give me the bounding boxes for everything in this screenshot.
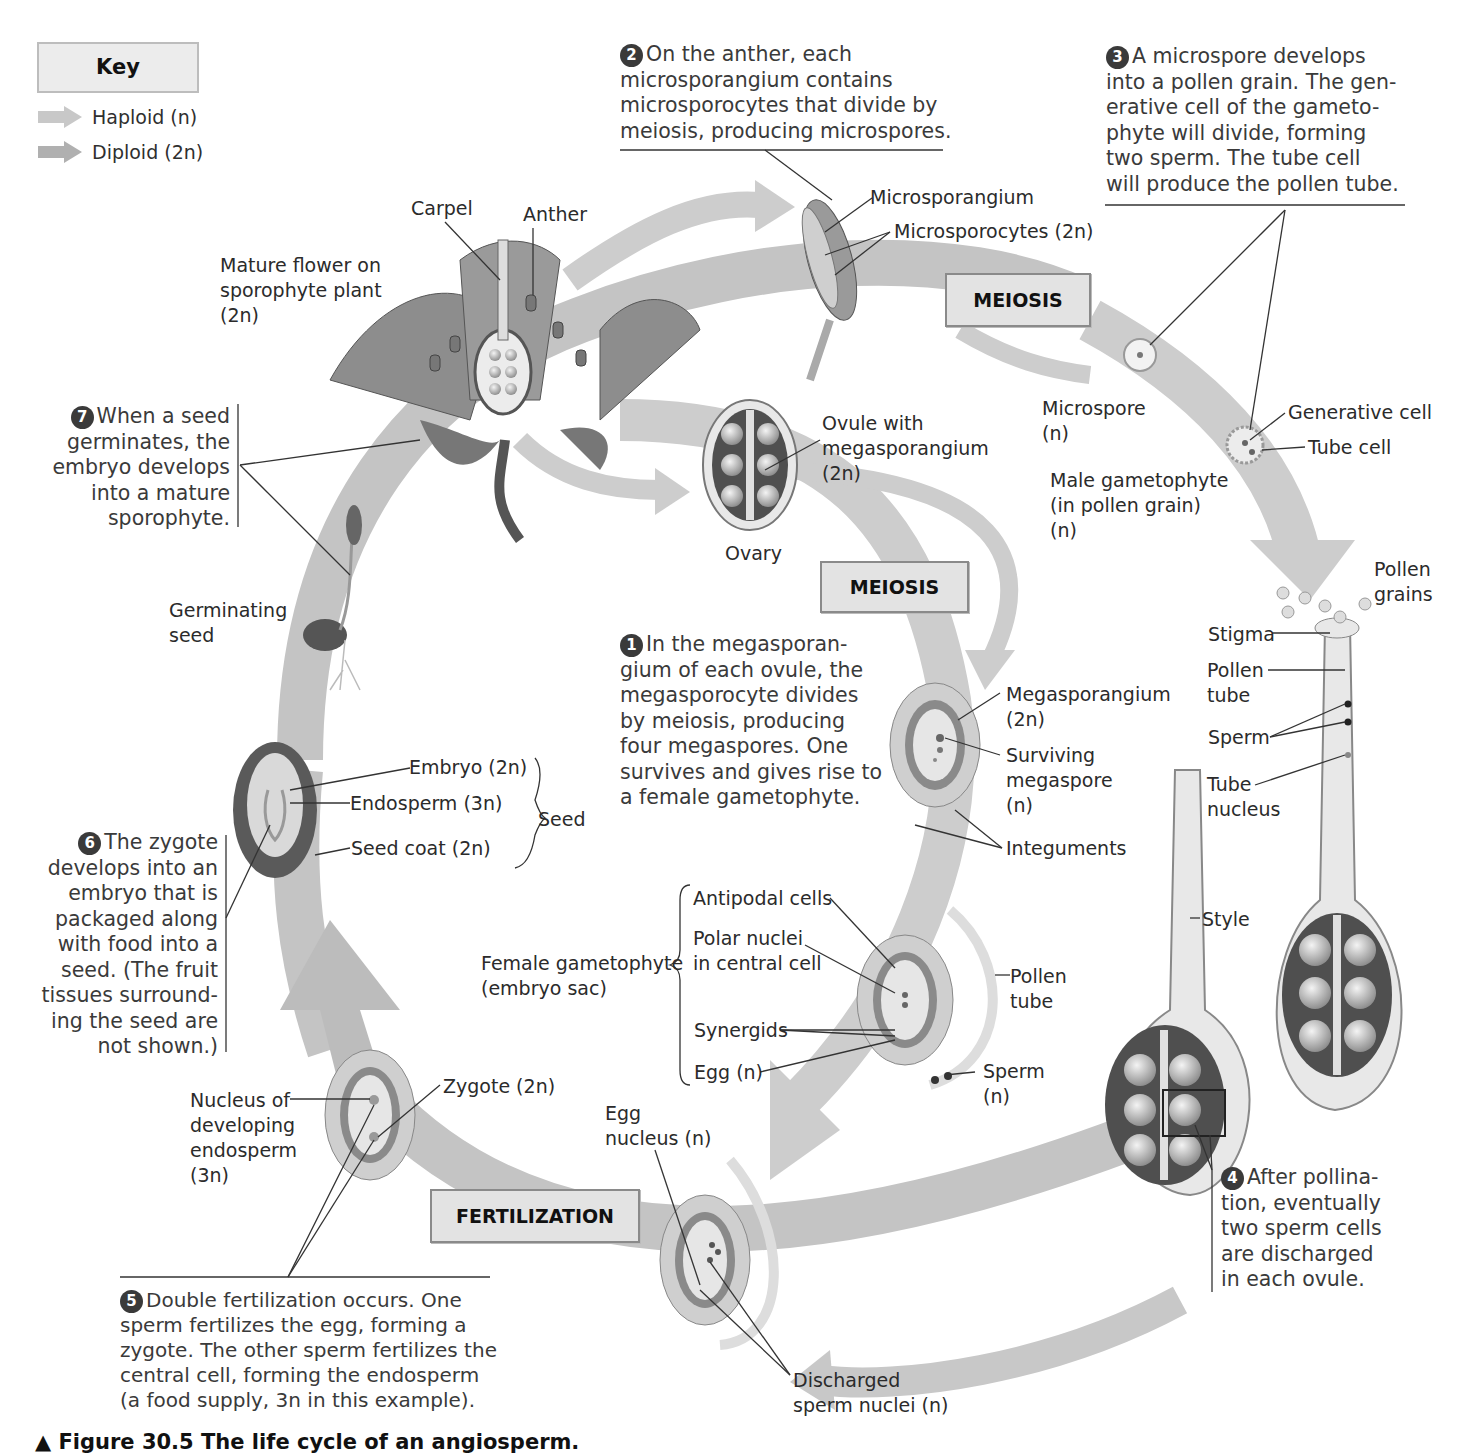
phase-fertilization: FERTILIZATION	[430, 1189, 640, 1243]
right-carpel-illustration	[1277, 587, 1402, 1110]
key-haploid-label: Haploid (n)	[92, 106, 197, 128]
key-item-diploid: Diploid (2n)	[38, 141, 203, 163]
label-pollen-tube-mid: Pollen tube	[1010, 964, 1067, 1014]
label-zygote: Zygote (2n)	[443, 1074, 555, 1099]
step-number-badge: 3	[1106, 46, 1129, 69]
step-2: 2On the anther, each microsporangium con…	[620, 42, 951, 144]
step-text: A microspore develops into a pollen grai…	[1106, 44, 1399, 196]
label-pollen-grains: Pollen grains	[1374, 557, 1433, 607]
haploid-arrow-icon	[38, 106, 82, 128]
label-seed-coat: Seed coat (2n)	[351, 836, 491, 861]
figure-caption: ▲ Figure 30.5 The life cycle of an angio…	[35, 1430, 579, 1454]
label-ovary: Ovary	[725, 541, 782, 566]
step-text: In the megasporan- gium of each ovule, t…	[620, 632, 882, 809]
label-germinating-seed: Germinating seed	[169, 598, 287, 648]
label-stigma: Stigma	[1208, 622, 1275, 647]
label-discharged-sperm: Discharged sperm nuclei (n)	[793, 1368, 948, 1418]
label-endosperm: Endosperm (3n)	[350, 791, 502, 816]
step-text: After pollina- tion, eventually two sper…	[1221, 1165, 1382, 1291]
label-style: Style	[1202, 907, 1250, 932]
label-antipodal-cells: Antipodal cells	[693, 886, 832, 911]
label-surviving-megaspore: Surviving megaspore (n)	[1006, 743, 1113, 818]
zygote-ovule-illustration	[325, 1050, 415, 1180]
label-generative-cell: Generative cell	[1288, 400, 1432, 425]
step-5: 5Double fertilization occurs. One sperm …	[120, 1288, 497, 1413]
label-sperm-mid: Sperm (n)	[983, 1059, 1045, 1109]
key-diploid-label: Diploid (2n)	[92, 141, 203, 163]
label-mature-flower: Mature flower on sporophyte plant (2n)	[220, 253, 382, 328]
step-number-badge: 5	[120, 1290, 143, 1313]
label-anther: Anther	[523, 202, 587, 227]
label-microsporangium: Microsporangium	[870, 185, 1034, 210]
label-carpel: Carpel	[411, 196, 473, 221]
label-tube-cell: Tube cell	[1308, 435, 1391, 460]
step-text: On the anther, each microsporangium cont…	[620, 42, 951, 143]
label-seed: Seed	[538, 807, 586, 832]
step-text: The zygote develops into an embryo that …	[41, 830, 218, 1058]
label-integuments: Integuments	[1006, 836, 1126, 861]
step-6: 6The zygote develops into an embryo that…	[40, 830, 218, 1060]
label-megasporangium: Megasporangium (2n)	[1006, 682, 1171, 732]
label-sperm-right: Sperm	[1208, 725, 1270, 750]
ovary-illustration	[703, 400, 797, 530]
step-number-badge: 2	[620, 44, 643, 67]
phase-meiosis-female: MEIOSIS	[820, 561, 969, 613]
label-nucleus-endosperm: Nucleus of developing endosperm (3n)	[190, 1088, 297, 1188]
step-number-badge: 7	[71, 406, 94, 429]
label-ovule-megasporangium: Ovule with megasporangium (2n)	[822, 411, 989, 486]
fertilization-ovule-illustration	[660, 1160, 774, 1345]
key-title: Key	[37, 42, 199, 93]
label-polar-nuclei: Polar nuclei in central cell	[693, 926, 821, 976]
label-egg-nucleus: Egg nucleus (n)	[605, 1101, 711, 1151]
label-pollen-tube-right: Pollen tube	[1207, 658, 1264, 708]
label-tube-nucleus: Tube nucleus	[1207, 772, 1280, 822]
label-microspore: Microspore (n)	[1042, 396, 1146, 446]
key-item-haploid: Haploid (n)	[38, 106, 197, 128]
diploid-arrow-icon	[38, 141, 82, 163]
step-text: Double fertilization occurs. One sperm f…	[120, 1288, 497, 1412]
label-female-gametophyte: Female gametophyte (embryo sac)	[481, 951, 683, 1001]
seed-illustration	[233, 742, 317, 878]
step-3: 3A microspore develops into a pollen gra…	[1106, 44, 1399, 197]
step-number-badge: 4	[1221, 1167, 1244, 1190]
label-egg: Egg (n)	[694, 1060, 763, 1085]
label-synergids: Synergids	[694, 1018, 788, 1043]
step-1: 1In the megasporan- gium of each ovule, …	[620, 632, 882, 811]
step-7: 7When a seed germinates, the embryo deve…	[40, 404, 230, 532]
label-microsporocytes: Microsporocytes (2n)	[894, 219, 1093, 244]
step-4: 4After pollina- tion, eventually two spe…	[1221, 1165, 1382, 1293]
phase-meiosis-male: MEIOSIS	[945, 273, 1091, 327]
label-male-gametophyte: Male gametophyte (in pollen grain) (n)	[1050, 468, 1229, 543]
step-number-badge: 1	[620, 634, 643, 657]
label-embryo: Embryo (2n)	[409, 755, 527, 780]
style-carpel-illustration	[1105, 770, 1249, 1195]
step-number-badge: 6	[78, 832, 101, 855]
